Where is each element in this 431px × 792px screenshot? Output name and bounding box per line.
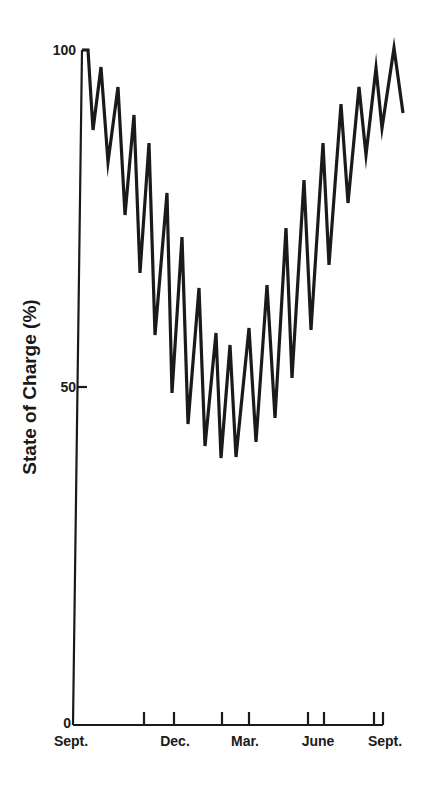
x-axis bbox=[73, 712, 383, 725]
state-of-charge-line bbox=[82, 48, 403, 458]
x-tick-dec: Dec. bbox=[160, 733, 190, 749]
line-chart bbox=[0, 0, 431, 792]
x-tick-sept-end: Sept. bbox=[368, 733, 402, 749]
y-tick-100: 100 bbox=[36, 42, 76, 58]
y-tick-0: 0 bbox=[31, 715, 71, 731]
x-tick-june: June bbox=[302, 733, 335, 749]
y-tick-50: 50 bbox=[36, 379, 76, 395]
x-tick-sept-start: Sept. bbox=[54, 733, 88, 749]
x-tick-mar: Mar. bbox=[231, 733, 259, 749]
